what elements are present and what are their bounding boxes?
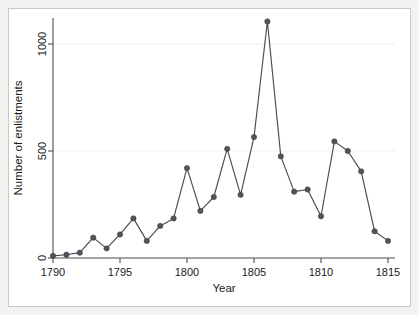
enlistments-series-line bbox=[53, 22, 388, 256]
data-point bbox=[251, 134, 256, 139]
x-tick-label: 1815 bbox=[376, 266, 400, 278]
data-point bbox=[158, 223, 163, 228]
data-point bbox=[91, 235, 96, 240]
data-point bbox=[171, 216, 176, 221]
data-point bbox=[144, 238, 149, 243]
data-point bbox=[278, 154, 283, 159]
data-point bbox=[238, 192, 243, 197]
data-point bbox=[225, 146, 230, 151]
data-point bbox=[50, 253, 55, 258]
x-tick-label: 1795 bbox=[108, 266, 132, 278]
x-axis-tick-labels: 179017951800180518101815 bbox=[41, 266, 400, 278]
data-point bbox=[359, 169, 364, 174]
y-axis-ticks bbox=[48, 44, 53, 258]
data-point bbox=[117, 232, 122, 237]
data-point bbox=[292, 189, 297, 194]
axes bbox=[53, 18, 395, 258]
data-point bbox=[77, 250, 82, 255]
data-point bbox=[104, 246, 109, 251]
x-tick-label: 1810 bbox=[309, 266, 333, 278]
data-point bbox=[385, 238, 390, 243]
data-point bbox=[64, 252, 69, 257]
data-point bbox=[372, 229, 377, 234]
y-axis-tick-labels: 05001000 bbox=[36, 32, 48, 261]
chart-figure: 05001000 179017951800180518101815 Number… bbox=[0, 0, 419, 315]
x-tick-label: 1800 bbox=[175, 266, 199, 278]
data-point bbox=[305, 187, 310, 192]
enlistments-line-chart: 05001000 179017951800180518101815 Number… bbox=[0, 0, 419, 315]
data-point bbox=[345, 148, 350, 153]
data-point bbox=[332, 139, 337, 144]
y-tick-label: 1000 bbox=[36, 32, 48, 56]
x-axis-ticks bbox=[53, 258, 388, 263]
x-axis-title: Year bbox=[212, 282, 235, 294]
y-tick-label: 0 bbox=[36, 255, 48, 261]
data-point bbox=[184, 165, 189, 170]
data-point bbox=[318, 214, 323, 219]
y-axis-title: Number of enlistments bbox=[12, 80, 24, 195]
x-tick-label: 1790 bbox=[41, 266, 65, 278]
enlistments-series-markers bbox=[50, 19, 390, 259]
gridlines bbox=[53, 44, 395, 151]
data-point bbox=[131, 216, 136, 221]
x-tick-label: 1805 bbox=[242, 266, 266, 278]
y-tick-label: 500 bbox=[36, 142, 48, 160]
data-point bbox=[265, 19, 270, 24]
data-point bbox=[211, 194, 216, 199]
data-point bbox=[198, 208, 203, 213]
